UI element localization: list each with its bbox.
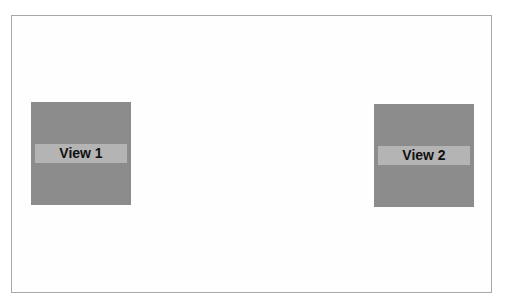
view-1-box: View 1 bbox=[31, 102, 131, 205]
view-2-box: View 2 bbox=[374, 104, 474, 207]
view-2-label: View 2 bbox=[378, 146, 470, 165]
view-1-label: View 1 bbox=[35, 144, 127, 163]
